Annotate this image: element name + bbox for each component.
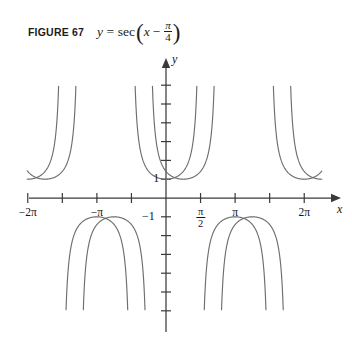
secant-branch xyxy=(27,86,58,179)
y-value-label-negative-one: −1 xyxy=(142,209,155,224)
figure-equation: y = sec ( x − π 4 ) xyxy=(97,20,180,44)
fraction-numerator: π xyxy=(164,20,172,31)
x-axis-arrowhead xyxy=(331,194,341,202)
graph-svg xyxy=(0,46,352,353)
equation-minus-operator: − xyxy=(153,24,161,40)
secant-branch xyxy=(273,86,321,179)
figure-container: FIGURE 67 y = sec ( x − π 4 ) −2π−ππ2π2π… xyxy=(0,0,352,353)
secant-branch xyxy=(204,217,266,310)
plot-area: −2π−ππ2π2πxy1−1 xyxy=(0,46,352,353)
equation-argument-variable: x xyxy=(144,24,150,40)
x-axis-name-label: x xyxy=(337,202,342,217)
equation-function-name: sec xyxy=(118,24,135,40)
equation-fraction: π 4 xyxy=(164,20,172,44)
secant-branch xyxy=(152,86,214,179)
x-tick-fraction-numerator: π xyxy=(197,206,204,217)
x-tick-label: π2 xyxy=(197,206,204,229)
y-axis-name-label: y xyxy=(172,52,177,67)
x-tick-label: π xyxy=(232,206,238,218)
secant-branch xyxy=(83,217,145,310)
x-tick-fraction-denominator: 2 xyxy=(196,217,205,229)
fraction-denominator: 4 xyxy=(164,31,172,43)
figure-number-label: FIGURE 67 xyxy=(28,26,84,38)
secant-branch xyxy=(222,217,284,310)
x-tick-label: −π xyxy=(91,206,103,218)
equation-equals-sign: = xyxy=(107,24,115,40)
secant-branch xyxy=(291,86,322,179)
axes-layer xyxy=(28,58,341,332)
y-value-label-one: 1 xyxy=(153,171,159,186)
x-tick-label: 2π xyxy=(298,206,310,218)
x-tick-label: −2π xyxy=(19,206,37,218)
secant-branch xyxy=(66,217,128,310)
figure-caption: FIGURE 67 y = sec ( x − π 4 ) xyxy=(28,20,180,44)
secant-branch xyxy=(27,86,76,179)
y-axis-arrowhead xyxy=(162,58,170,68)
equation-lhs: y xyxy=(97,24,103,40)
